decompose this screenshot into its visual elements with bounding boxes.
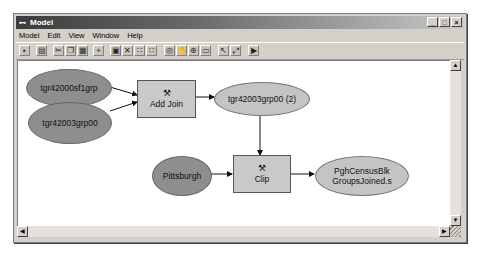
scroll-right-button[interactable]: ▶ xyxy=(439,226,450,237)
scroll-up-button[interactable]: ▲ xyxy=(450,60,461,71)
maximize-button[interactable]: □ xyxy=(439,17,450,27)
layout-auto-icon[interactable]: ∷ xyxy=(146,45,157,56)
menu-view[interactable]: View xyxy=(68,30,84,41)
title-bar[interactable]: ⊷ Model _ □ × xyxy=(16,16,464,29)
pan-icon[interactable]: ✋ xyxy=(176,45,187,56)
node-label-line2: GroupsJoined.s xyxy=(332,176,392,186)
derived-node-tgr42003grp00-2[interactable]: tgr42003grp00 (2) xyxy=(214,82,310,116)
toolbar: ▪ ▤ ✂ ❐ ▦ + ▣ ✕ ∷ ∷ ◎ ✋ ⊕ ▭ ↖ ⤢ ▶ xyxy=(16,42,464,60)
node-label: tgr42000sf1grp xyxy=(40,83,97,93)
input-node-tgr42003grp00[interactable]: tgr42003grp00 xyxy=(28,102,112,144)
select-icon[interactable]: ↖ xyxy=(218,45,229,56)
delete-icon[interactable]: ✕ xyxy=(122,45,133,56)
model-canvas[interactable]: tgr42000sf1grp tgr42003grp00 ⚒ Add Join … xyxy=(17,60,451,227)
menu-help[interactable]: Help xyxy=(127,30,142,41)
paste-icon[interactable]: ▦ xyxy=(77,45,88,56)
model-builder-icon: ⊷ xyxy=(19,16,26,29)
node-label: Pittsburgh xyxy=(163,171,201,181)
close-button[interactable]: × xyxy=(451,17,462,27)
menu-model[interactable]: Model xyxy=(19,30,39,41)
menu-bar: Model Edit View Window Help xyxy=(16,30,464,41)
save-icon[interactable]: ▪ xyxy=(19,45,30,56)
model-window: ⊷ Model _ □ × Model Edit View Window Hel… xyxy=(13,13,467,243)
node-label: Clip xyxy=(255,174,270,184)
hammer-icon: ⚒ xyxy=(258,164,266,173)
properties-icon[interactable]: ▣ xyxy=(110,45,121,56)
input-node-pittsburgh[interactable]: Pittsburgh xyxy=(152,156,212,196)
cut-icon[interactable]: ✂ xyxy=(53,45,64,56)
vertical-scrollbar[interactable]: ▲ ▼ xyxy=(450,60,461,226)
derived-node-pghcensusblkgroupsjoined[interactable]: PghCensusBlk GroupsJoined.s xyxy=(315,156,409,196)
minimize-button[interactable]: _ xyxy=(427,17,438,27)
tool-node-clip[interactable]: ⚒ Clip xyxy=(233,155,291,193)
node-label: tgr42003grp00 xyxy=(42,118,97,128)
run-icon[interactable]: ▶ xyxy=(248,45,259,56)
node-label: tgr42003grp00 (2) xyxy=(228,94,296,104)
node-label: Add Join xyxy=(150,99,183,109)
window-title: Model xyxy=(30,16,53,29)
zoom-full-icon[interactable]: ◎ xyxy=(164,45,175,56)
tool-node-add-join[interactable]: ⚒ Add Join xyxy=(137,80,196,118)
menu-edit[interactable]: Edit xyxy=(47,30,60,41)
scroll-left-button[interactable]: ◀ xyxy=(17,226,28,237)
layout-grid-icon[interactable]: ∷ xyxy=(134,45,145,56)
zoom-in-icon[interactable]: ⊕ xyxy=(188,45,199,56)
zoom-extent-icon[interactable]: ▭ xyxy=(200,45,211,56)
node-label-line1: PghCensusBlk xyxy=(334,166,390,176)
horizontal-scrollbar[interactable]: ◀ ▶ xyxy=(17,226,450,237)
hammer-icon: ⚒ xyxy=(163,89,171,98)
resize-grip[interactable] xyxy=(450,226,461,237)
add-data-icon[interactable]: + xyxy=(93,45,104,56)
scroll-down-button[interactable]: ▼ xyxy=(450,215,461,226)
connect-icon[interactable]: ⤢ xyxy=(230,45,241,56)
print-icon[interactable]: ▤ xyxy=(36,45,47,56)
menu-window[interactable]: Window xyxy=(93,30,120,41)
copy-icon[interactable]: ❐ xyxy=(65,45,76,56)
